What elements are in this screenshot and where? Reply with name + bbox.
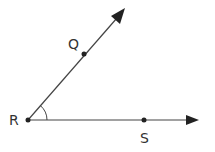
point-label-s: S <box>140 130 149 146</box>
angle-diagram: R Q S <box>0 0 215 152</box>
ray-rq <box>28 8 125 120</box>
ray-rs <box>28 115 199 125</box>
ray-rq-line <box>28 18 117 120</box>
angle-arc-mark <box>41 106 48 120</box>
point-r-dot <box>26 118 31 123</box>
point-q-dot <box>82 52 87 57</box>
point-s-dot <box>142 118 147 123</box>
vertex-label-r: R <box>9 112 19 128</box>
arrowhead-icon <box>186 115 199 125</box>
point-label-q: Q <box>68 36 79 52</box>
